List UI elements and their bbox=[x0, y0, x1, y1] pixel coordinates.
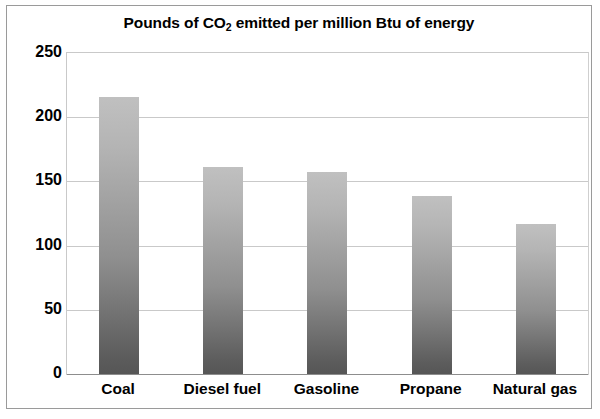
y-tick-label: 200 bbox=[10, 108, 62, 124]
x-tick-label: Coal bbox=[66, 381, 170, 397]
bar bbox=[203, 167, 243, 374]
x-axis-line bbox=[67, 374, 588, 375]
bar-group bbox=[275, 53, 379, 374]
bar bbox=[516, 224, 556, 374]
chart-container: Pounds of CO2 emitted per million Btu of… bbox=[6, 5, 592, 409]
y-tick-label: 150 bbox=[10, 172, 62, 188]
bar-group bbox=[380, 53, 484, 374]
chart-title-suffix: emitted per million Btu of energy bbox=[231, 14, 474, 31]
chart-title-subscript: 2 bbox=[226, 21, 232, 33]
bar-group bbox=[67, 53, 171, 374]
x-tick-label: Diesel fuel bbox=[170, 381, 274, 397]
x-tick-label: Gasoline bbox=[274, 381, 378, 397]
bar bbox=[99, 97, 139, 374]
bar-group bbox=[171, 53, 275, 374]
x-tick-label: Natural gas bbox=[483, 381, 587, 397]
plot-area bbox=[66, 52, 589, 375]
y-tick-label: 0 bbox=[10, 365, 62, 381]
chart-title-prefix: Pounds of CO bbox=[124, 14, 226, 31]
bar bbox=[307, 172, 347, 374]
x-tick-label: Propane bbox=[379, 381, 483, 397]
bar-group bbox=[484, 53, 588, 374]
bar bbox=[412, 196, 452, 374]
chart-title: Pounds of CO2 emitted per million Btu of… bbox=[7, 14, 591, 32]
y-axis: 050100150200250 bbox=[7, 52, 62, 373]
y-tick-label: 250 bbox=[10, 44, 62, 60]
y-tick-label: 50 bbox=[10, 301, 62, 317]
y-tick-label: 100 bbox=[10, 237, 62, 253]
x-axis: CoalDiesel fuelGasolinePropaneNatural ga… bbox=[66, 381, 587, 409]
